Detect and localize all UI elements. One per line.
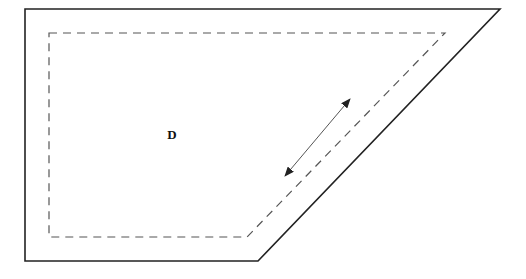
diagram-canvas: D [0,0,526,279]
outer-boundary [25,9,500,261]
inner-dashed-boundary [49,33,445,237]
region-label-d: D [167,127,176,142]
